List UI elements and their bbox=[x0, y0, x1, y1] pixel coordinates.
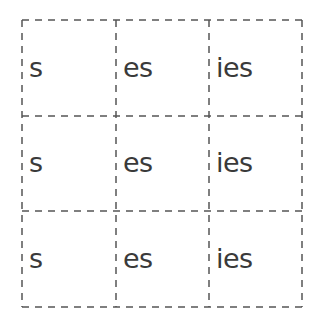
cell-text: es bbox=[116, 147, 153, 180]
cell-text: ies bbox=[209, 243, 253, 276]
grid-cell: es bbox=[116, 211, 209, 307]
suffix-grid: s es ies s es ies s es ies bbox=[22, 20, 302, 307]
cell-text: s bbox=[22, 52, 43, 85]
cell-text: es bbox=[116, 243, 153, 276]
cell-text: ies bbox=[209, 52, 253, 85]
grid-cell: s bbox=[22, 20, 116, 116]
grid-cell: ies bbox=[209, 211, 302, 307]
grid-cell: es bbox=[116, 116, 209, 211]
cell-text: s bbox=[22, 243, 43, 276]
cell-text: es bbox=[116, 52, 153, 85]
grid-cell: s bbox=[22, 116, 116, 211]
grid-cell: es bbox=[116, 20, 209, 116]
cell-text: s bbox=[22, 147, 43, 180]
grid-cell: s bbox=[22, 211, 116, 307]
grid-cell: ies bbox=[209, 116, 302, 211]
cell-text: ies bbox=[209, 147, 253, 180]
grid-cell: ies bbox=[209, 20, 302, 116]
